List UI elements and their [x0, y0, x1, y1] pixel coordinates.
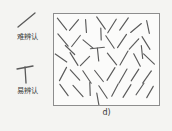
distractor-line [106, 36, 114, 48]
distractor-line [86, 20, 87, 33]
figure-root: 难辨认 易辨认 d) [0, 0, 172, 131]
search-array-box [53, 13, 160, 106]
distractor-line [131, 69, 139, 81]
legend-column: 难辨认 易辨认 [4, 8, 50, 114]
distractor-line [59, 67, 66, 80]
distractor-line [108, 19, 116, 33]
distractor-line [143, 71, 152, 83]
legend-label-easy: 易辨认 [4, 86, 50, 95]
t-shape-glyph [4, 62, 50, 86]
distractor-line [118, 34, 127, 47]
distractor-line [129, 39, 138, 49]
legend-item-easy: 易辨认 [4, 62, 50, 95]
search-array-svg [54, 14, 159, 105]
distractor-line [97, 17, 106, 29]
distractor-line [83, 40, 93, 48]
distractor-line [131, 24, 142, 33]
panel-caption: d) [53, 108, 160, 117]
distractor-line [141, 46, 142, 59]
distractor-line [144, 54, 155, 64]
distractor-line [57, 18, 66, 30]
distractor-line [142, 37, 150, 50]
legend-item-hard: 难辨认 [4, 8, 50, 41]
distractor-line [123, 85, 131, 98]
distractor-line [70, 20, 79, 31]
distractor-line [147, 86, 154, 97]
distractor-line [72, 35, 81, 46]
distractor-line [112, 84, 119, 96]
distractor-line [134, 54, 141, 66]
distractor-line [60, 84, 68, 95]
distractor-line [97, 93, 99, 105]
target-stem [97, 48, 98, 61]
distractor-line [119, 69, 127, 83]
distractor-line [147, 21, 150, 34]
distractor-line [80, 56, 89, 65]
distractor-line [55, 54, 66, 62]
distractor-line [136, 83, 144, 95]
tilted-line-svg [4, 8, 50, 32]
distractor-line [107, 68, 115, 81]
distractor-line [58, 34, 68, 46]
distractor-line [107, 53, 116, 65]
distractor-line [95, 70, 104, 81]
distractor-line [120, 51, 128, 65]
distractor-line [99, 86, 107, 98]
t-shape-svg [4, 62, 50, 86]
distractor-line [73, 85, 83, 96]
distractor-line [70, 70, 79, 80]
tilted-line-glyph [4, 8, 50, 32]
legend-label-hard: 难辨认 [4, 32, 50, 41]
target-t-shape [90, 47, 105, 61]
distractor-line [120, 18, 129, 30]
distractor-line [83, 71, 91, 83]
